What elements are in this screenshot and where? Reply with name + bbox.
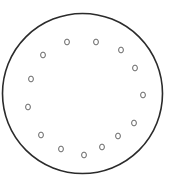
circle-diagram	[0, 0, 170, 181]
small-circle	[26, 104, 31, 110]
small-circles-group	[26, 39, 146, 158]
small-circle	[65, 39, 70, 45]
small-circle	[119, 47, 124, 53]
outer-circle	[3, 14, 163, 174]
small-circle	[29, 76, 34, 82]
small-circle	[132, 120, 137, 126]
small-circle	[94, 39, 99, 45]
small-circle	[59, 146, 64, 152]
small-circle	[141, 92, 146, 98]
small-circle	[100, 144, 105, 150]
small-circle	[133, 65, 138, 71]
small-circle	[39, 132, 44, 138]
small-circle	[116, 133, 121, 139]
small-circle	[41, 52, 46, 58]
small-circle	[82, 152, 87, 158]
